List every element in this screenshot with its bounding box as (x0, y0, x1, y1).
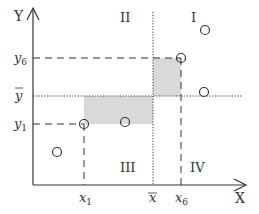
xbar-tick-label: x (149, 190, 157, 205)
data-point-top (201, 26, 210, 35)
ybar-tick-label: y (14, 88, 23, 103)
quadrant-label-2: II (120, 10, 130, 25)
y6-tick-label: y6 (13, 50, 27, 67)
x-axis-label: X (235, 190, 245, 206)
shaded-region-x1-y1 (84, 96, 153, 124)
shaded-region-x6-y6 (153, 58, 181, 96)
quadrant-label-1: I (191, 10, 196, 25)
x1-tick-label: x1 (79, 190, 92, 207)
quadrant-label-4: IV (190, 160, 205, 175)
quadrant-label-3: III (120, 160, 135, 175)
x6-tick-label: x6 (175, 190, 188, 207)
scatter-quadrant-diagram: Y X II I III IV y6 y y1 x1 x x6 (0, 0, 259, 214)
y1-tick-label: y1 (13, 116, 27, 133)
y-axis-label: Y (13, 8, 24, 24)
data-point-right (200, 88, 209, 97)
data-point-low (53, 148, 62, 157)
